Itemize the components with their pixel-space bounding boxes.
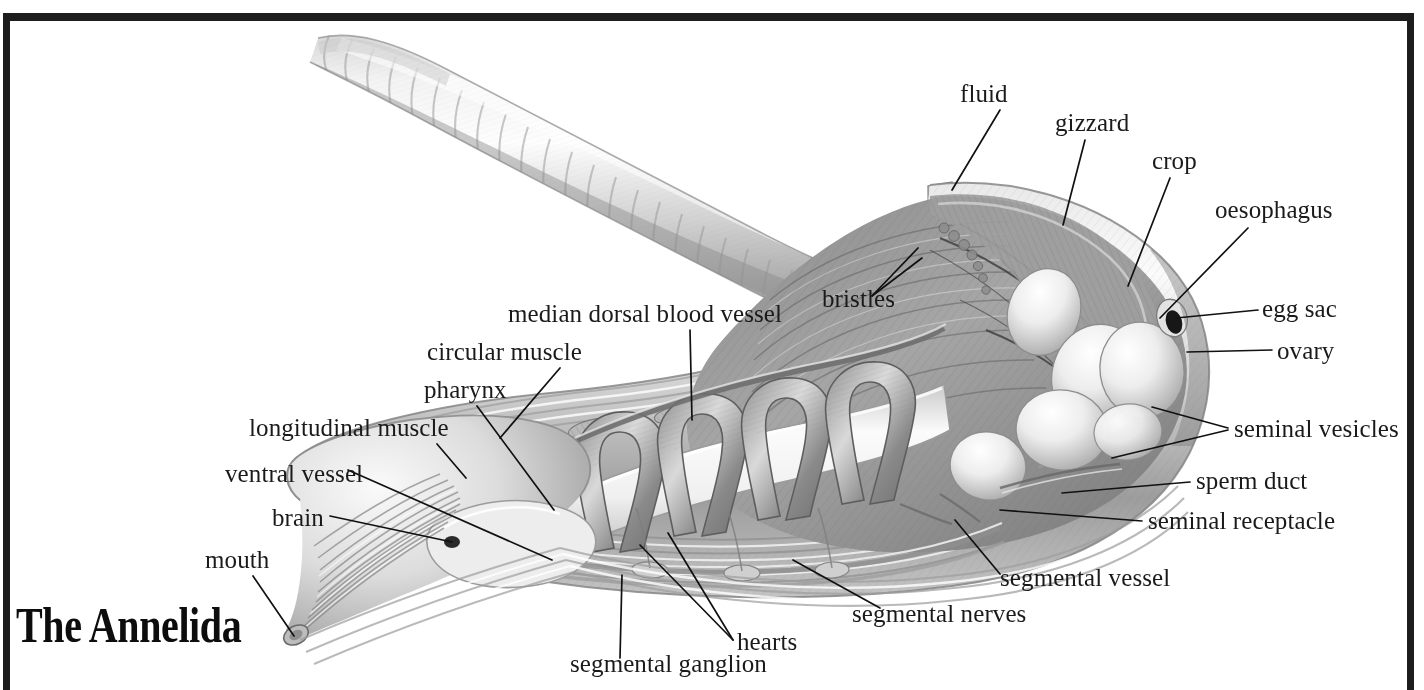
label-mouth: mouth: [205, 547, 269, 572]
label-crop: crop: [1152, 148, 1197, 173]
label-gizzard: gizzard: [1055, 110, 1129, 135]
label-median-dorsal-blood-vessel: median dorsal blood vessel: [508, 301, 782, 326]
label-fluid: fluid: [960, 81, 1008, 106]
label-pharynx: pharynx: [424, 377, 507, 402]
annelida-anatomy-illustration: [0, 0, 1424, 690]
label-segmental-vessel: segmental vessel: [1000, 565, 1170, 590]
page-title: The Annelida: [16, 600, 241, 650]
label-brain: brain: [272, 505, 324, 530]
label-ventral-vessel: ventral vessel: [225, 461, 363, 486]
label-ovary: ovary: [1277, 338, 1334, 363]
label-seminal-receptacle: seminal receptacle: [1148, 508, 1335, 533]
label-egg-sac: egg sac: [1262, 296, 1337, 321]
figure-page: fluidgizzardcropoesophagusegg sacovaryse…: [0, 0, 1424, 690]
label-longitudinal-muscle: longitudinal muscle: [249, 415, 449, 440]
label-sperm-duct: sperm duct: [1196, 468, 1307, 493]
brain-organ: [444, 536, 460, 548]
label-seminal-vesicles: seminal vesicles: [1234, 416, 1399, 441]
label-bristles: bristles: [822, 286, 895, 311]
label-circular-muscle: circular muscle: [427, 339, 582, 364]
label-segmental-ganglion: segmental ganglion: [570, 651, 767, 676]
label-oesophagus: oesophagus: [1215, 197, 1333, 222]
label-segmental-nerves: segmental nerves: [852, 601, 1026, 626]
